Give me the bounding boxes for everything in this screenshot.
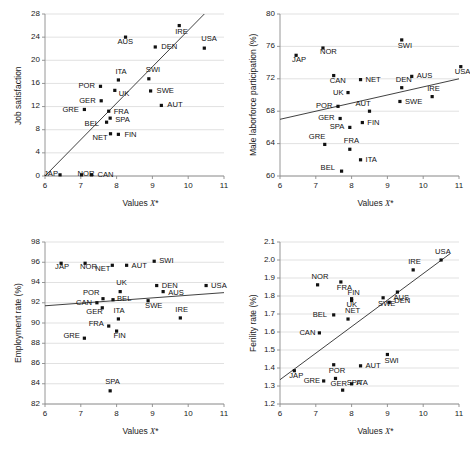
y-axis-tick-label: 96 [31, 257, 40, 266]
data-point-spa [109, 389, 112, 392]
data-point-den [154, 45, 157, 48]
point-label-gre: GRE [62, 105, 78, 114]
data-point-ire [412, 268, 415, 271]
data-point-aut [160, 104, 163, 107]
point-label-gre: GRE [309, 132, 325, 141]
point-label-swi: SWI [146, 65, 160, 74]
x-axis-tick-label: 7 [69, 409, 93, 418]
data-point-bel [111, 298, 114, 301]
point-label-ita: ITA [113, 306, 124, 315]
y-axis-tick-label: 24 [31, 32, 40, 41]
data-point-fra [107, 110, 110, 113]
point-label-uk: UK [347, 300, 358, 309]
point-label-swi: SWI [384, 356, 398, 365]
data-point-ita [117, 317, 120, 320]
x-axis-tick-label: 10 [176, 181, 200, 190]
point-label-jap: JAP [289, 371, 303, 380]
point-label-nor: NOR [78, 169, 95, 178]
point-label-uk: UK [333, 88, 344, 97]
y-axis-tick-label: 4 [36, 147, 40, 156]
y-axis-tick-label: 72 [266, 73, 275, 82]
point-label-swe: SWE [157, 86, 174, 95]
data-point-nor [316, 283, 319, 286]
x-axis-tick-label: 11 [447, 181, 470, 190]
x-axis-tick-label: 9 [140, 409, 164, 418]
data-point-ger [100, 99, 103, 102]
point-label-fra: FRA [89, 319, 104, 328]
data-point-gre [83, 108, 86, 111]
point-label-por: POR [83, 288, 99, 297]
point-label-aus: AUS [417, 71, 433, 80]
point-label-spa: SPA [105, 377, 120, 386]
y-axis-tick-label: 1.4 [264, 363, 275, 372]
point-label-aut: AUT [132, 261, 147, 270]
y-axis-tick-label: 90 [31, 318, 40, 327]
data-point-den [155, 284, 158, 287]
point-label-ger: GER [318, 113, 334, 122]
point-label-net: NET [366, 75, 381, 84]
point-label-can: CAN [98, 170, 114, 179]
y-axis-title: Ferility rate (%) [248, 294, 258, 352]
point-label-aut: AUT [167, 100, 182, 109]
data-point-aus [162, 290, 165, 293]
point-label-aut: AUT [356, 99, 371, 108]
point-label-aus: AUS [118, 37, 134, 46]
point-label-ger: GER [79, 96, 95, 105]
point-label-fra: FRA [114, 107, 129, 116]
y-axis-tick-label: 28 [31, 9, 40, 18]
y-axis-title: Employment rate (%) [13, 283, 23, 363]
y-axis-title: Job satisfaction [13, 66, 23, 125]
y-axis-tick-label: 1.5 [264, 345, 275, 354]
point-label-fin: FIN [124, 130, 136, 139]
data-point-spa [341, 389, 344, 392]
y-axis-tick-label: 92 [31, 297, 40, 306]
point-label-uk: UK [116, 278, 127, 287]
x-axis-tick-label: 7 [69, 181, 93, 190]
y-axis-tick-label: 2.1 [264, 237, 275, 246]
data-point-por [99, 85, 102, 88]
data-point-fin [361, 121, 364, 124]
point-label-por: POR [78, 81, 94, 90]
point-label-ire: IRE [408, 257, 421, 266]
data-point-net [346, 317, 349, 320]
x-axis-tick-label: 6 [33, 409, 57, 418]
data-point-net [109, 132, 112, 135]
y-axis-tick-label: 2.0 [264, 255, 275, 264]
y-axis-tick-label: 1.9 [264, 273, 275, 282]
figure-panel-grid: 048121620242867891011JAPNORCANGREGERPORB… [0, 0, 470, 456]
data-point-bel [332, 313, 335, 316]
x-axis-tick-label: 7 [304, 181, 328, 190]
data-point-net [359, 78, 362, 81]
x-axis-tickmarks [45, 404, 224, 407]
point-label-den: DEN [161, 42, 177, 51]
x-axis-tick-label: 9 [375, 409, 399, 418]
y-axis-tick-label: 64 [266, 138, 275, 147]
point-label-net: NET [93, 133, 108, 142]
data-point-bel [340, 170, 343, 173]
point-label-fin: FIN [367, 118, 379, 127]
x-axis-title: Values X* [0, 426, 235, 436]
point-label-gre: GRE [63, 331, 79, 340]
y-axis-tick-label: 84 [31, 378, 40, 387]
point-label-gre: GRE [304, 376, 320, 385]
data-point-spa [109, 117, 112, 120]
point-label-swe: SWE [145, 301, 162, 310]
y-axis-tick-label: 16 [31, 78, 40, 87]
data-point-spa [348, 126, 351, 129]
point-label-usa: USA [455, 67, 470, 76]
x-axis-title: Values X* [0, 198, 235, 208]
data-point-gre [323, 143, 326, 146]
point-label-ita: ITA [115, 67, 126, 76]
x-axis-tick-label: 6 [268, 181, 292, 190]
data-point-bel [105, 121, 108, 124]
point-label-ire: IRE [175, 305, 188, 314]
y-axis-tick-label: 1.8 [264, 291, 275, 300]
x-axis-tick-label: 6 [268, 409, 292, 418]
point-label-aus: AUS [168, 288, 184, 297]
data-point-ita [117, 78, 120, 81]
data-point-usa [205, 284, 208, 287]
y-axis-tick-label: 94 [31, 277, 40, 286]
data-point-fin [117, 133, 120, 136]
y-axis-tick-label: 60 [266, 171, 275, 180]
point-label-jap: JAP [292, 55, 306, 64]
